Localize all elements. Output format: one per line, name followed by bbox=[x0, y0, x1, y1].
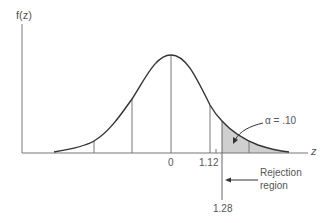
rejection-label-line1: Rejection bbox=[260, 168, 302, 178]
y-axis-label: f(z) bbox=[16, 10, 32, 21]
tick-label-1-28: 1.28 bbox=[213, 204, 232, 214]
tick-label-zero: 0 bbox=[168, 158, 174, 168]
rejection-label-line2: region bbox=[260, 181, 288, 191]
tick-label-1-12: 1.12 bbox=[199, 158, 218, 168]
alpha-annotation: α = .10 bbox=[265, 116, 296, 126]
x-axis-label: z bbox=[311, 146, 317, 157]
rejection-arrowhead bbox=[225, 178, 231, 183]
